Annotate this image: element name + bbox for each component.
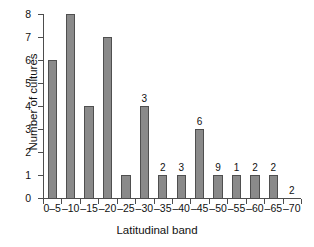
bar-value-label: 3: [178, 163, 184, 173]
y-tick-label: 5: [25, 78, 31, 89]
bar-value-label: 2: [252, 163, 258, 173]
x-tick-label: –25: [117, 203, 135, 214]
y-axis-line: [43, 14, 44, 199]
y-tick: 4: [38, 106, 43, 107]
y-tick: 8: [38, 14, 43, 15]
bar: [195, 129, 204, 198]
x-tick-label: 0–5: [43, 203, 61, 214]
bar-value-label: 2: [289, 186, 295, 196]
y-tick: 5: [38, 83, 43, 84]
plot-area: 012345678 323691222: [43, 14, 301, 199]
x-tick-label: –50: [209, 203, 227, 214]
y-tick-label: 1: [25, 170, 31, 181]
bar-value-label: 9: [215, 163, 221, 173]
bar-value-label: 6: [197, 117, 203, 127]
bar: [232, 175, 241, 198]
bar: [121, 175, 130, 198]
x-axis-tick-labels: 0–5–10–15–20–25–30–35–40–45–50–55–60–65–…: [43, 203, 301, 219]
x-tick-label: –45: [191, 203, 209, 214]
y-tick-label: 3: [25, 124, 31, 135]
x-tick: [301, 199, 302, 204]
y-tick: 2: [38, 152, 43, 153]
bar-chart-figure: Number of cultures 012345678 323691222 0…: [0, 0, 314, 247]
bar: [48, 60, 57, 198]
x-tick-label: –55: [228, 203, 246, 214]
y-tick-label: 0: [25, 193, 31, 204]
bar: [66, 14, 75, 198]
y-tick-label: 2: [25, 147, 31, 158]
x-tick-label: –30: [136, 203, 154, 214]
x-tick-label: –35: [154, 203, 172, 214]
x-axis-title: Latitudinal band: [0, 224, 314, 236]
y-tick: 3: [38, 129, 43, 130]
bar: [177, 175, 186, 198]
bar: [269, 175, 278, 198]
y-tick-label: 7: [25, 32, 31, 43]
y-tick-label: 8: [25, 9, 31, 20]
bar: [84, 106, 93, 198]
y-tick-label: 6: [25, 55, 31, 66]
x-tick-label: –65: [265, 203, 283, 214]
bar: [158, 175, 167, 198]
bar: [213, 175, 222, 198]
bar-value-label: 2: [271, 163, 277, 173]
y-tick: 6: [38, 60, 43, 61]
y-tick: 1: [38, 175, 43, 176]
bar: [103, 37, 112, 198]
x-tick-label: –15: [80, 203, 98, 214]
bar: [140, 106, 149, 198]
bar-value-label: 1: [234, 163, 240, 173]
bar-value-label: 3: [142, 94, 148, 104]
x-tick-label: –10: [62, 203, 80, 214]
y-tick: 7: [38, 37, 43, 38]
x-tick-label: –60: [246, 203, 264, 214]
x-tick-label: –40: [172, 203, 190, 214]
bar: [250, 175, 259, 198]
x-tick-label: –70: [283, 203, 301, 214]
bar-value-label: 2: [160, 163, 166, 173]
x-tick-label: –20: [99, 203, 117, 214]
y-tick-label: 4: [25, 101, 31, 112]
